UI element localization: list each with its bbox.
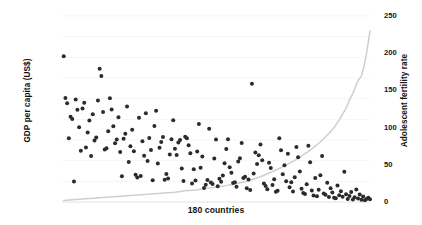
scatter-point (354, 187, 358, 191)
scatter-point (308, 160, 312, 164)
y-axis-right-tick-label: 50 (384, 161, 392, 169)
scatter-point (270, 183, 274, 187)
scatter-point (243, 175, 247, 179)
scatter-point (96, 99, 100, 103)
scatter-point (277, 136, 281, 140)
scatter-point (221, 174, 225, 178)
scatter-point (260, 158, 264, 162)
scatter-point (108, 96, 112, 100)
scatter-point (358, 193, 362, 197)
scatter-point (205, 178, 209, 182)
scatter-point (190, 182, 194, 186)
scatter-point (185, 136, 189, 140)
scatter-point (312, 194, 316, 198)
scatter-point (87, 119, 91, 123)
scatter-point (204, 183, 208, 187)
scatter-point (170, 137, 174, 141)
y-axis-right-tick-label: 0 (384, 198, 388, 206)
scatter-point (303, 192, 307, 196)
scatter-point (368, 197, 372, 201)
scatter-point (98, 67, 102, 71)
scatter-point (294, 145, 298, 149)
scatter-point (335, 183, 339, 187)
scatter-point (337, 193, 341, 197)
scatter-point (77, 125, 81, 129)
chart-container: GDP per capita (US$) Adolescent fertilit… (0, 0, 422, 225)
scatter-point (173, 147, 177, 151)
scatter-point (125, 105, 129, 109)
scatter-point (252, 171, 256, 175)
scatter-point (226, 137, 230, 141)
scatter-point (159, 140, 163, 144)
scatter-point (289, 180, 293, 184)
scatter-point (86, 131, 90, 135)
y-axis-right-tick-label: 100 (384, 124, 397, 132)
scatter-point (315, 194, 319, 198)
scatter-point (122, 137, 126, 141)
y-axis-right-tick-label: 200 (384, 49, 397, 57)
scatter-point (245, 186, 249, 190)
scatter-point (91, 112, 95, 116)
scatter-point (300, 187, 304, 191)
scatter-point (324, 193, 328, 197)
scatter-point (161, 135, 165, 139)
scatter-point (149, 148, 153, 152)
scatter-point (180, 167, 184, 171)
scatter-point (247, 177, 251, 181)
scatter-point (310, 188, 314, 192)
scatter-point (240, 141, 244, 145)
scatter-point (193, 179, 197, 183)
scatter-point (84, 145, 88, 149)
scatter-point (284, 179, 288, 183)
scatter-point (166, 176, 170, 180)
scatter-point (313, 176, 317, 180)
scatter-point (154, 109, 158, 113)
scatter-point (233, 180, 237, 184)
scatter-point (320, 154, 324, 158)
scatter-point (298, 169, 302, 173)
scatter-point (128, 144, 132, 148)
scatter-point (267, 161, 271, 165)
scatter-point (81, 107, 85, 111)
scatter-point (171, 118, 175, 122)
scatter-point (238, 156, 242, 160)
scatter-point (334, 196, 338, 200)
scatter-point (63, 96, 67, 100)
scatter-point (269, 166, 273, 170)
plot-svg (62, 16, 370, 202)
scatter-point (158, 146, 162, 150)
scatter-point (272, 177, 276, 181)
y-axis-left-ticks: 010,00020,00030,00040,00050,00060,00070,… (0, 0, 57, 225)
scatter-point (178, 138, 182, 142)
scatter-point (211, 182, 215, 186)
scatter-point (342, 170, 346, 174)
scatter-point (65, 101, 69, 105)
scatter-point (356, 196, 360, 200)
gridlines (62, 16, 370, 202)
scatter-point (197, 122, 201, 126)
scatter-point (281, 172, 285, 176)
scatter-point (255, 162, 259, 166)
scatter-point (67, 136, 71, 140)
scatter-point (207, 127, 211, 131)
scatter-point (279, 148, 283, 152)
scatter-point (325, 181, 329, 185)
scatter-point (144, 111, 148, 115)
scatter-point (228, 165, 232, 169)
scatter-point (75, 108, 79, 112)
scatter-point (200, 155, 204, 159)
scatter-point (353, 195, 357, 199)
scatter-point (317, 188, 321, 192)
scatter-point (214, 138, 218, 142)
scatter-point (291, 189, 295, 193)
scatter-point (72, 180, 76, 184)
scatter-point (116, 115, 120, 119)
scatter-point (113, 141, 117, 145)
scatter-point (82, 101, 86, 105)
scatter-point (187, 143, 191, 147)
scatter-point (99, 74, 103, 78)
scatter-point (306, 144, 310, 148)
scatter-point (175, 153, 179, 157)
scatter-point (276, 189, 280, 193)
gdp-per-capita-scatter (62, 54, 372, 202)
